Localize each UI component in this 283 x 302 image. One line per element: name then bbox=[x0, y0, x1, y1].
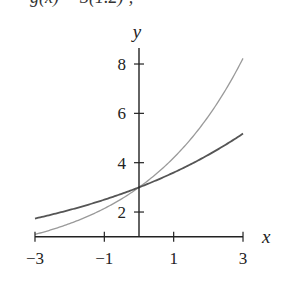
x-tick-label: −3 bbox=[26, 249, 44, 268]
exponential-chart: −3−1132468xy bbox=[0, 0, 283, 302]
x-tick-label: 1 bbox=[169, 249, 178, 268]
y-tick-label: 8 bbox=[118, 55, 127, 74]
x-tick-label: −1 bbox=[95, 249, 113, 268]
x-axis-label: x bbox=[261, 226, 271, 247]
y-tick-label: 2 bbox=[118, 203, 127, 222]
x-tick-label: 3 bbox=[239, 249, 248, 268]
y-tick-label: 4 bbox=[118, 154, 127, 173]
y-axis-label: y bbox=[131, 21, 142, 42]
y-tick-label: 6 bbox=[118, 104, 127, 123]
axes: −3−1132468xy bbox=[26, 21, 271, 268]
